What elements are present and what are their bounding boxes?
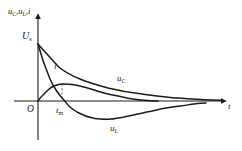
curve-i (38, 84, 158, 101)
curve-label-ul: uL (110, 124, 118, 133)
curve-uc (38, 44, 222, 100)
y-axis-label-i: i (28, 6, 30, 16)
rlc-transient-figure: uC,uL,i t Us O i tm uC uL (0, 0, 242, 151)
y-intercept-label: Us (22, 31, 32, 41)
peak-time-label: tm (56, 106, 63, 115)
y-axis-label-ul: uL (18, 6, 26, 16)
x-axis-label: t (228, 102, 231, 111)
curve-label-uc: uC (117, 74, 125, 83)
origin-label: O (27, 105, 34, 115)
curve-label-i: i (54, 62, 57, 71)
y-axis-label-uc: uC (8, 6, 16, 16)
y-axis-label: uC,uL,i (8, 7, 30, 16)
